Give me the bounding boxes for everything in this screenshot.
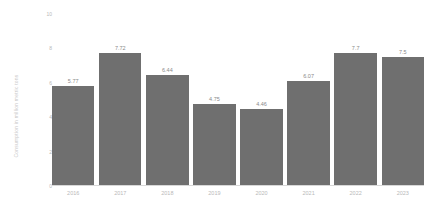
- x-tick-label: 2018: [146, 190, 188, 196]
- x-tick-label: 2021: [287, 190, 329, 196]
- bar-value-label: 7.5: [382, 49, 424, 55]
- bar-item[interactable]: 7.7: [334, 14, 376, 185]
- bar-value-label: 4.46: [240, 101, 282, 107]
- bar[interactable]: [193, 104, 235, 185]
- x-tick-label: 2023: [382, 190, 424, 196]
- bar[interactable]: [99, 53, 141, 185]
- x-tick-label: 2022: [334, 190, 376, 196]
- y-axis-title: Consumption in million metric tons: [13, 66, 19, 166]
- bar-item[interactable]: 4.75: [193, 14, 235, 185]
- x-axis-line: [52, 185, 424, 186]
- bar-item[interactable]: 7.72: [99, 14, 141, 185]
- bar-item[interactable]: 5.77: [52, 14, 94, 185]
- bar-chart: Consumption in million metric tons 10 8 …: [0, 0, 432, 214]
- x-axis-tick-labels: 2016 2017 2018 2019 2020 2021 2022 2023: [52, 190, 424, 196]
- bar[interactable]: [334, 53, 376, 185]
- bar-item[interactable]: 6.44: [146, 14, 188, 185]
- x-tick-label: 2020: [240, 190, 282, 196]
- plot-area: 5.77 7.72 6.44 4.75 4.46 6.07: [52, 14, 424, 186]
- y-axis-tick-labels: 10 8 6 4 2 0: [30, 0, 52, 214]
- bar-item[interactable]: 6.07: [287, 14, 329, 185]
- bar[interactable]: [287, 81, 329, 185]
- x-tick-label: 2019: [193, 190, 235, 196]
- bar-value-label: 4.75: [193, 96, 235, 102]
- bar-value-label: 7.72: [99, 45, 141, 51]
- bar[interactable]: [146, 75, 188, 185]
- bar-value-label: 6.44: [146, 67, 188, 73]
- bar[interactable]: [52, 86, 94, 185]
- bar-group: 5.77 7.72 6.44 4.75 4.46 6.07: [52, 14, 424, 185]
- bar-value-label: 5.77: [52, 78, 94, 84]
- bar[interactable]: [240, 109, 282, 185]
- bar-item[interactable]: 7.5: [382, 14, 424, 185]
- bar-item[interactable]: 4.46: [240, 14, 282, 185]
- bar-value-label: 7.7: [334, 45, 376, 51]
- bar[interactable]: [382, 57, 424, 185]
- x-tick-label: 2017: [99, 190, 141, 196]
- x-tick-label: 2016: [52, 190, 94, 196]
- bar-value-label: 6.07: [287, 73, 329, 79]
